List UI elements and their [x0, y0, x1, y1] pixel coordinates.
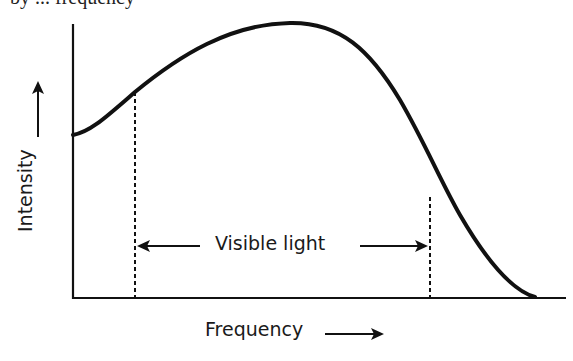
visible-light-label: Visible light — [215, 232, 325, 254]
right-arrow-icon — [360, 240, 428, 252]
intensity-arrow-icon — [32, 81, 44, 137]
intensity-frequency-diagram: by ... frequency Visible light Frequency… — [0, 0, 573, 361]
intensity-curve — [73, 23, 535, 297]
y-axis-label: Intensity — [14, 149, 36, 232]
diagram-canvas — [0, 0, 573, 361]
x-axis-label: Frequency — [205, 318, 303, 340]
caption-fragment: by ... frequency — [10, 0, 135, 9]
frequency-arrow-icon — [325, 328, 384, 340]
left-arrow-icon — [137, 240, 200, 252]
